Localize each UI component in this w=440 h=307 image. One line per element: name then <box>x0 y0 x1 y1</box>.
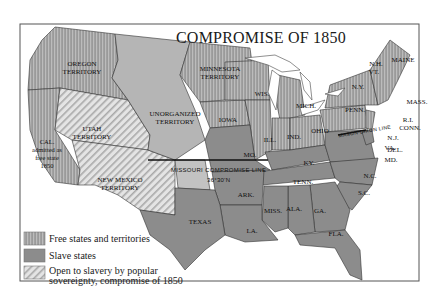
michigan <box>276 75 305 120</box>
label-maine: MAINE <box>390 56 416 64</box>
label-fla: FLA. <box>325 230 347 238</box>
indian-territory <box>175 160 210 190</box>
label-ala: ALA. <box>283 205 305 213</box>
label-la: LA. <box>244 227 260 235</box>
label-ny: N.Y. <box>350 83 366 91</box>
legend-swatch-slave <box>24 249 45 262</box>
label-ill: ILL. <box>260 136 280 144</box>
label-ind: IND. <box>283 133 305 141</box>
label-tenn: TENN. <box>290 178 316 186</box>
label-nh: N.H. <box>368 60 384 68</box>
label-sc: S.C. <box>355 189 373 197</box>
latitude-label: 36°30'N <box>207 177 230 183</box>
label-penn: PENN. <box>342 106 368 114</box>
label-conn: CONN. <box>396 124 424 132</box>
label-wis: WIS. <box>252 90 272 98</box>
label-iowa: IOWA <box>213 116 243 124</box>
label-del: DEL. <box>384 146 406 154</box>
label-unorganized: UNORGANIZED TERRITORY <box>140 110 210 126</box>
label-md: MD. <box>382 156 400 164</box>
label-oregon: OREGON TERRITORY <box>58 60 106 76</box>
label-minnesota: MINNESOTA TERRITORY <box>196 65 244 81</box>
missouri-compromise-label: MISSOURI COMPROMISE LINE <box>171 167 266 173</box>
label-new-mexico: NEW MEXICO TERRITORY <box>92 176 148 192</box>
label-ky: KY. <box>300 159 318 167</box>
label-ohio: OHIO <box>308 127 332 135</box>
label-nc: N.C. <box>360 172 380 180</box>
label-miss: MISS. <box>261 207 285 215</box>
label-california: CAL. admitted as free state 1850 <box>28 138 66 170</box>
label-mass: MASS. <box>405 98 429 106</box>
label-vt: VT. <box>367 68 381 76</box>
legend-slave-label: Slave states <box>49 251 96 261</box>
label-mo: MO. <box>240 151 260 159</box>
legend-swatch-free <box>24 232 45 245</box>
arkansas <box>212 170 264 205</box>
legend-popular-sovereignty-label: Open to slavery by popular sovereignty, … <box>49 266 199 286</box>
label-mich: MICH. <box>293 102 319 110</box>
label-texas: TEXAS <box>180 218 220 226</box>
label-ri: R.I. <box>400 116 416 124</box>
label-ga: GA. <box>311 207 329 215</box>
legend-free-label: Free states and territories <box>49 234 150 244</box>
label-nj: N.J. <box>385 134 401 142</box>
label-ark: ARK. <box>236 191 256 199</box>
label-utah: UTAH TERRITORY <box>68 125 116 141</box>
map-title: COMPROMISE OF 1850 <box>176 29 346 47</box>
legend-swatch-popular-sovereignty <box>24 266 45 279</box>
